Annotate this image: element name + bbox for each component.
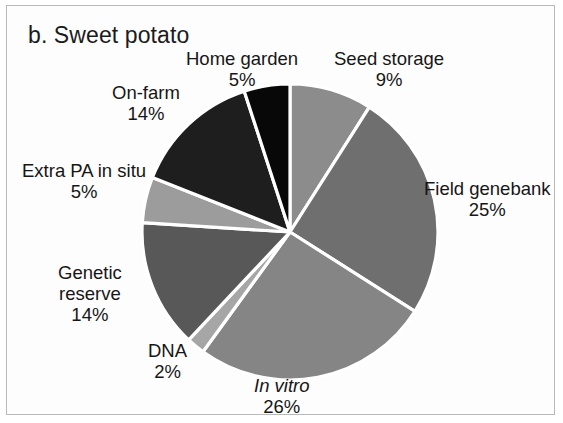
slice-label-home-garden-name: Home garden bbox=[186, 48, 298, 69]
slice-label-in-vitro: In vitro 26% bbox=[254, 375, 310, 417]
slice-label-on-farm: On-farm 14% bbox=[112, 82, 180, 124]
slice-label-field-genebank: Field genebank 25% bbox=[424, 178, 551, 220]
slice-label-field-genebank-name: Field genebank bbox=[424, 178, 551, 199]
slice-label-extra-pa-in-situ-pct: 5% bbox=[22, 181, 146, 202]
pie-slice-group bbox=[142, 84, 438, 380]
slice-label-genetic-reserve-name-line1: Genetic bbox=[58, 262, 122, 283]
slice-label-extra-pa-in-situ-name: Extra PA in situ bbox=[22, 160, 146, 181]
slice-label-on-farm-pct: 14% bbox=[112, 103, 180, 124]
pie-chart-figure: b. Sweet potato Seed storage 9% Field ge… bbox=[0, 0, 563, 423]
slice-label-home-garden-pct: 5% bbox=[186, 69, 298, 90]
slice-label-genetic-reserve-name-line2: reserve bbox=[58, 283, 122, 304]
slice-label-seed-storage-name: Seed storage bbox=[334, 48, 444, 69]
slice-label-home-garden: Home garden 5% bbox=[186, 48, 298, 90]
slice-label-dna-pct: 2% bbox=[148, 361, 187, 382]
slice-label-seed-storage: Seed storage 9% bbox=[334, 48, 444, 90]
slice-label-field-genebank-pct: 25% bbox=[424, 199, 551, 220]
slice-label-dna: DNA 2% bbox=[148, 340, 187, 382]
slice-label-genetic-reserve-pct: 14% bbox=[58, 304, 122, 325]
slice-label-genetic-reserve: Genetic reserve 14% bbox=[58, 262, 122, 325]
slice-label-in-vitro-name: In vitro bbox=[254, 375, 310, 396]
slice-label-extra-pa-in-situ: Extra PA in situ 5% bbox=[22, 160, 146, 202]
slice-label-dna-name: DNA bbox=[148, 340, 187, 361]
slice-label-on-farm-name: On-farm bbox=[112, 82, 180, 103]
slice-label-in-vitro-pct: 26% bbox=[254, 396, 310, 417]
slice-label-seed-storage-pct: 9% bbox=[334, 69, 444, 90]
